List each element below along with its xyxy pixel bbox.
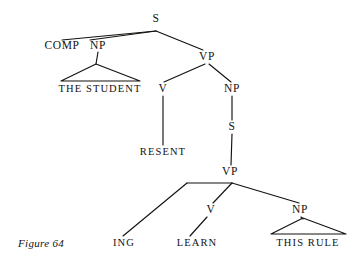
- node-v-resent: V: [159, 83, 168, 95]
- branch-lines: [62, 31, 303, 236]
- vp-embedded-to-ing: [123, 183, 187, 236]
- the-student-triangle: [61, 64, 140, 81]
- np-subject-to-triangle-apex: [96, 52, 98, 64]
- vp-main-to-v: [164, 64, 205, 82]
- v-learn-to-learn: [190, 217, 207, 236]
- node-np-object: NP: [224, 83, 240, 95]
- terminal-the-student: THE STUDENT: [59, 84, 142, 95]
- terminal-this-rule: THIS RULE: [276, 238, 339, 249]
- figure-caption: Figure 64: [18, 237, 64, 249]
- s-embedded-to-vp-embedded: [231, 134, 232, 165]
- node-np-subject: NP: [90, 40, 106, 52]
- terminal-ing: ING: [113, 238, 135, 249]
- terminal-learn: LEARN: [177, 238, 218, 249]
- node-comp: COMP: [45, 40, 80, 52]
- s-to-vp-main: [156, 31, 203, 50]
- node-np-this-rule: NP: [292, 204, 308, 216]
- vp-embedded-to-v-learn: [213, 183, 232, 203]
- syntax-tree-figure: S COMP NP VP THE STUDENT V NP RESENT S V…: [0, 0, 364, 267]
- vp-main-to-np-object: [209, 64, 231, 82]
- node-vp-embedded: VP: [222, 166, 238, 178]
- node-s-embedded: S: [229, 121, 236, 133]
- node-s-root: S: [153, 13, 160, 25]
- node-vp-main: VP: [199, 51, 215, 63]
- node-v-learn: V: [207, 204, 216, 216]
- this-rule-triangle: [271, 218, 346, 234]
- terminal-resent: RESENT: [140, 147, 186, 158]
- vp-embedded-to-np-this-rule: [232, 183, 299, 203]
